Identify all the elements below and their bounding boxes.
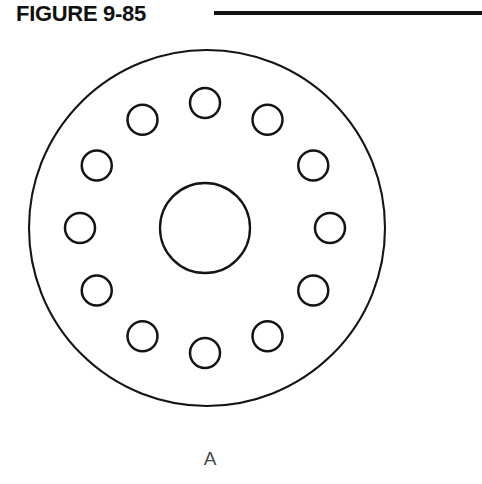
bolt-hole bbox=[315, 213, 345, 243]
bolt-hole bbox=[82, 276, 112, 306]
bolt-hole bbox=[82, 151, 112, 181]
bolt-hole bbox=[128, 321, 158, 351]
bolt-hole bbox=[298, 151, 328, 181]
bolt-hole bbox=[65, 213, 95, 243]
bolt-hole-group bbox=[65, 88, 345, 368]
technical-drawing bbox=[0, 30, 482, 440]
figure-page: FIGURE 9-85 A bbox=[0, 0, 482, 484]
view-label-text: A bbox=[204, 448, 217, 470]
center-bore-circle bbox=[160, 183, 250, 273]
bolt-hole bbox=[298, 276, 328, 306]
figure-header: FIGURE 9-85 bbox=[0, 0, 482, 30]
bolt-hole bbox=[190, 88, 220, 118]
outer-diameter-circle bbox=[29, 50, 385, 406]
page-title: FIGURE 9-85 bbox=[16, 1, 146, 27]
bolt-hole bbox=[253, 105, 283, 135]
bolt-hole bbox=[190, 338, 220, 368]
part-drawing-svg bbox=[0, 30, 482, 440]
view-label: A bbox=[0, 448, 482, 470]
bolt-hole bbox=[128, 105, 158, 135]
header-rule bbox=[214, 11, 482, 15]
bolt-hole bbox=[253, 321, 283, 351]
